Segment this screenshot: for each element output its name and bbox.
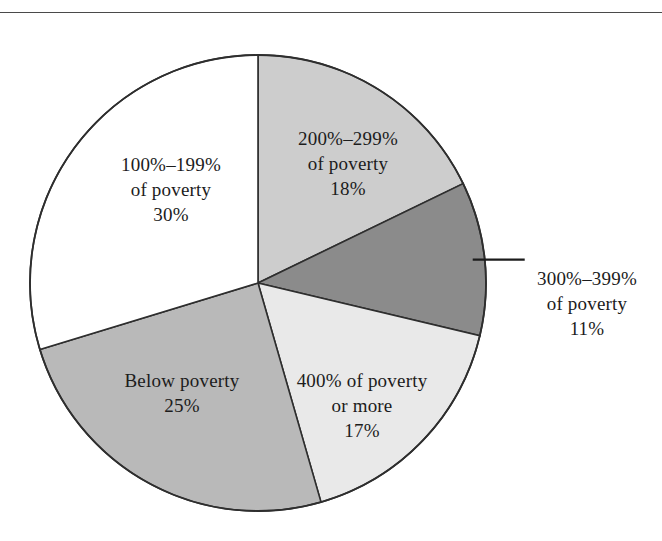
pie-label-100-199-line2: of poverty: [86, 177, 256, 202]
pie-label-400-plus-line2: or more: [272, 393, 452, 418]
pie-label-400-plus-value: 17%: [272, 418, 452, 443]
pie-label-300-399-value: 11%: [512, 316, 662, 341]
pie-label-200-299-value: 18%: [268, 176, 428, 201]
pie-label-400-plus-line1: 400% of poverty: [272, 368, 452, 393]
pie-label-below-poverty-value: 25%: [92, 393, 272, 418]
pie-label-300-399-line2: of poverty: [512, 291, 662, 316]
pie-label-200-299-line1: 200%–299%: [268, 126, 428, 151]
pie-label-below-poverty-line1: Below poverty: [92, 368, 272, 393]
pie-label-400-plus: 400% of poverty or more 17%: [272, 368, 452, 443]
pie-label-300-399-line1: 300%–399%: [512, 266, 662, 291]
pie-chart-figure: 200%–299% of poverty 18% 100%–199% of po…: [0, 0, 662, 541]
pie-label-100-199-value: 30%: [86, 202, 256, 227]
pie-label-100-199: 100%–199% of poverty 30%: [86, 152, 256, 227]
pie-label-below-poverty: Below poverty 25%: [92, 368, 272, 418]
pie-label-200-299: 200%–299% of poverty 18%: [268, 126, 428, 201]
pie-label-300-399: 300%–399% of poverty 11%: [512, 266, 662, 341]
pie-label-100-199-line1: 100%–199%: [86, 152, 256, 177]
pie-label-200-299-line2: of poverty: [268, 151, 428, 176]
